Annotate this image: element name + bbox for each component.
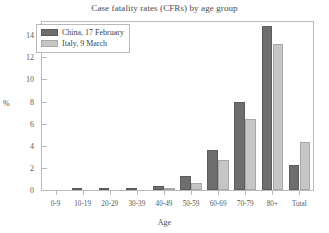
x-tick-mark — [218, 191, 219, 195]
x-tick-label: 40-49 — [156, 200, 173, 208]
x-axis-ticks: 0-910-1920-2930-3940-4950-5960-6970-7980… — [0, 196, 329, 208]
bar — [153, 186, 164, 190]
x-axis-label: Age — [0, 218, 329, 227]
y-tick-label: 12 — [10, 53, 34, 62]
chart-figure: Case fatality rates (CFRs) by age group … — [0, 0, 329, 233]
bar — [273, 44, 284, 190]
bar — [218, 160, 229, 190]
x-tick-mark — [83, 191, 84, 195]
legend-swatch — [41, 40, 58, 47]
bar — [164, 188, 175, 190]
bar — [207, 150, 218, 190]
x-tick-mark — [272, 191, 273, 195]
x-tick-label: 50-59 — [183, 200, 200, 208]
chart-legend: China, 17 FebruaryItaly, 9 March — [36, 24, 130, 53]
legend-item: Italy, 9 March — [41, 38, 124, 49]
bar — [191, 183, 202, 190]
bar-group — [232, 22, 259, 190]
x-tick-mark — [110, 191, 111, 195]
bar-group — [205, 22, 232, 190]
x-tick-label: 0-9 — [51, 200, 61, 208]
bar — [300, 142, 311, 190]
x-tick-label: 10-19 — [74, 200, 91, 208]
bar — [126, 188, 137, 190]
y-tick-label: 8 — [10, 97, 34, 106]
y-tick-label: 10 — [10, 75, 34, 84]
y-tick-label: 4 — [10, 141, 34, 150]
legend-swatch — [41, 29, 58, 36]
x-tick-mark — [191, 191, 192, 195]
y-tick-mark — [42, 190, 47, 191]
bar — [234, 102, 245, 190]
chart-title: Case fatality rates (CFRs) by age group — [0, 3, 329, 13]
legend-label: Italy, 9 March — [62, 39, 107, 48]
y-tick-label: 2 — [10, 163, 34, 172]
y-tick-label: 6 — [10, 119, 34, 128]
x-tick-mark — [137, 191, 138, 195]
legend-label: China, 17 February — [62, 28, 124, 37]
x-tick-mark — [245, 191, 246, 195]
x-tick-label: 30-39 — [128, 200, 145, 208]
legend-item: China, 17 February — [41, 27, 124, 38]
bar-group — [150, 22, 177, 190]
bar — [180, 176, 191, 190]
x-tick-label: Total — [292, 200, 307, 208]
x-tick-label: 80+ — [267, 200, 278, 208]
bar — [262, 26, 273, 190]
x-tick-label: 20-29 — [101, 200, 118, 208]
x-tick-label: 70-79 — [237, 200, 254, 208]
bar — [99, 188, 110, 190]
x-tick-label: 60-69 — [210, 200, 227, 208]
x-tick-mark — [164, 191, 165, 195]
y-tick-label: 0 — [10, 186, 34, 195]
bar — [245, 119, 256, 190]
x-tick-mark — [299, 191, 300, 195]
bar-group — [259, 22, 286, 190]
y-tick-label: 14 — [10, 31, 34, 40]
bar-group — [178, 22, 205, 190]
bar — [289, 165, 300, 190]
x-tick-mark — [56, 191, 57, 195]
bar — [72, 188, 83, 190]
bar-group — [286, 22, 313, 190]
